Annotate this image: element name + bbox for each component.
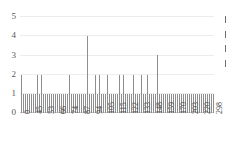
bar [57,94,58,113]
bar [165,94,166,113]
legend-item-2 [224,29,234,41]
y-tick-2: 2 [12,70,17,79]
legend-item-1 [224,14,234,26]
x-tick-66: 66 [60,106,68,114]
bar [93,94,94,113]
x-tick-45: 45 [36,106,44,114]
bar [21,75,22,113]
bar [87,36,88,113]
x-tick-87: 87 [84,106,92,114]
x-tick-115: 115 [120,102,128,114]
x-tick-298: 298 [216,102,224,114]
x-tick-53: 53 [48,106,56,114]
y-tick-5: 5 [12,12,17,21]
x-tick-122: 122 [132,102,140,114]
y-tick-3: 3 [12,51,17,60]
plot-area [20,16,214,113]
bar [213,94,214,113]
bar [153,94,154,113]
bar [189,94,190,113]
x-tick-133: 133 [144,102,152,114]
x-axis: 0455366748794105115122133148159170203220… [20,114,214,144]
legend-item-3 [224,43,234,55]
y-tick-1: 1 [12,89,17,98]
bar [177,94,178,113]
legend-line-icon [225,16,226,23]
legend-line-icon [225,45,226,52]
x-tick-203: 203 [192,102,200,114]
bar [117,94,118,113]
bar [45,94,46,113]
bar [33,94,34,113]
histogram-chart: 5 4 3 2 1 0 0455366748794105115122133148… [0,0,234,144]
bar [81,94,82,113]
y-tick-0: 0 [12,108,17,117]
x-tick-148: 148 [156,102,164,114]
x-tick-220: 220 [204,102,212,114]
legend-line-icon [225,60,226,67]
x-tick-94: 94 [96,106,104,114]
bar [141,75,142,113]
bar [129,94,130,113]
x-tick-159: 159 [168,102,176,114]
y-tick-4: 4 [12,31,17,40]
x-tick-170: 170 [180,102,188,114]
legend [224,10,234,70]
bar [201,94,202,113]
x-tick-105: 105 [108,102,116,114]
y-axis: 5 4 3 2 1 0 [0,0,20,124]
x-tick-0: 0 [24,110,32,114]
x-tick-74: 74 [72,106,80,114]
bar-series [20,16,214,113]
bar [105,94,106,113]
legend-item-4 [224,58,234,70]
bar [69,75,70,113]
legend-line-icon [225,31,226,38]
